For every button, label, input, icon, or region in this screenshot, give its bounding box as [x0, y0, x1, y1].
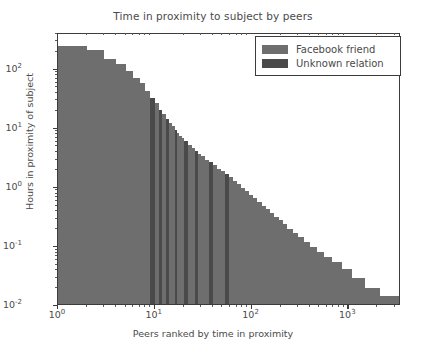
- legend-item: Unknown relation: [262, 58, 394, 69]
- x-axis-minor-tick: [297, 305, 298, 307]
- y-axis-label-container: Hours in proximity of subject: [8, 40, 28, 300]
- x-axis-minor-tick-top: [212, 33, 213, 35]
- y-axis-label: Hours in proximity of subject: [24, 47, 35, 237]
- x-axis-minor-tick: [103, 305, 104, 307]
- y-axis-tick-label: 102: [0, 63, 22, 74]
- legend-label: Facebook friend: [296, 44, 375, 55]
- x-axis-minor-tick: [229, 305, 230, 307]
- x-axis-tick-mark: [251, 305, 252, 309]
- y-axis-tick-label: 10-1: [0, 240, 22, 251]
- x-axis-minor-tick: [326, 305, 327, 307]
- x-axis-minor-tick: [132, 305, 133, 307]
- bar: [332, 262, 341, 305]
- x-axis-minor-tick: [394, 305, 395, 307]
- x-axis-minor-tick-top: [200, 33, 201, 35]
- legend: Facebook friendUnknown relation: [255, 36, 401, 76]
- x-axis-minor-tick-top: [241, 33, 242, 35]
- bar: [310, 247, 317, 305]
- bar: [133, 78, 139, 305]
- x-axis-minor-tick-top: [132, 33, 133, 35]
- legend-color-swatch: [262, 59, 288, 68]
- x-axis-minor-tick-top: [229, 33, 230, 35]
- x-axis-minor-tick-top: [144, 33, 145, 35]
- x-axis-minor-tick: [376, 305, 377, 307]
- figure-canvas: Time in proximity to subject by peers Ho…: [0, 0, 426, 359]
- x-axis-tick-mark: [347, 305, 348, 309]
- page-title: Time in proximity to subject by peers: [0, 10, 426, 22]
- x-axis-minor-tick-top: [149, 33, 150, 35]
- bar: [58, 46, 87, 305]
- x-axis-minor-tick: [332, 305, 333, 307]
- x-axis-minor-tick: [212, 305, 213, 307]
- x-axis-minor-tick-top: [86, 33, 87, 35]
- x-axis-minor-tick: [144, 305, 145, 307]
- y-axis-tick-label: 10-2: [0, 299, 22, 310]
- y-axis-tick-label: 100: [0, 181, 22, 192]
- x-axis-minor-tick: [318, 305, 319, 307]
- x-axis-minor-tick-top: [183, 33, 184, 35]
- x-axis-label: Peers ranked by time in proximity: [0, 328, 426, 339]
- x-axis-minor-tick: [221, 305, 222, 307]
- x-axis-minor-tick-top: [221, 33, 222, 35]
- x-axis-tick-label: 102: [226, 309, 276, 320]
- x-axis-minor-tick: [149, 305, 150, 307]
- x-axis-minor-tick: [309, 305, 310, 307]
- bar: [116, 64, 125, 305]
- bar: [104, 59, 116, 305]
- bar: [317, 252, 324, 305]
- x-axis-minor-tick-top: [139, 33, 140, 35]
- bar: [87, 50, 104, 305]
- x-axis-tick-mark: [154, 305, 155, 309]
- legend-item: Facebook friend: [262, 44, 394, 55]
- x-axis-tick-mark: [57, 305, 58, 309]
- x-axis-minor-tick: [125, 305, 126, 307]
- legend-color-swatch: [262, 45, 288, 54]
- x-axis-minor-tick-top: [236, 33, 237, 35]
- bar: [342, 269, 353, 305]
- y-axis-tick-label: 101: [0, 122, 22, 133]
- bar: [365, 288, 379, 305]
- x-axis-tick-label: 100: [32, 309, 82, 320]
- x-axis-minor-tick-top: [125, 33, 126, 35]
- x-axis-minor-tick: [246, 305, 247, 307]
- bar: [126, 71, 134, 305]
- x-axis-minor-tick: [241, 305, 242, 307]
- x-axis-minor-tick: [280, 305, 281, 307]
- bar: [380, 296, 400, 305]
- x-axis-minor-tick-top: [103, 33, 104, 35]
- x-axis-tick-label: 103: [322, 309, 372, 320]
- bar: [324, 257, 332, 305]
- legend-label: Unknown relation: [296, 58, 384, 69]
- bar: [352, 278, 365, 305]
- x-axis-tick-label: 101: [129, 309, 179, 320]
- x-axis-minor-tick-top: [246, 33, 247, 35]
- x-axis-minor-tick: [236, 305, 237, 307]
- x-axis-minor-tick: [139, 305, 140, 307]
- x-axis-minor-tick: [183, 305, 184, 307]
- x-axis-minor-tick: [200, 305, 201, 307]
- x-axis-minor-tick-top: [115, 33, 116, 35]
- x-axis-minor-tick: [338, 305, 339, 307]
- x-axis-minor-tick: [115, 305, 116, 307]
- x-axis-minor-tick: [86, 305, 87, 307]
- x-axis-minor-tick: [343, 305, 344, 307]
